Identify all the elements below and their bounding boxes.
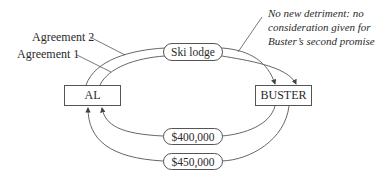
node-buster: BUSTER: [255, 85, 312, 106]
payment-450k-pill: $450,000: [163, 153, 223, 170]
annotation-line-3: Buster’s second promise: [268, 34, 375, 48]
node-al: AL: [64, 85, 121, 106]
agreement-1-leader: [77, 55, 111, 72]
agreement-2-label: Agreement 2: [32, 30, 94, 45]
annotation-leader: [238, 17, 262, 52]
agreement-2-leader: [90, 37, 125, 55]
annotation-line-1: No new detriment: no: [268, 6, 375, 20]
annotation-note: No new detriment: no consideration given…: [268, 6, 375, 48]
payment-400k-pill: $400,000: [163, 128, 223, 145]
annotation-line-2: consideration given for: [268, 20, 375, 34]
agreement-1-label: Agreement 1: [17, 47, 79, 62]
ski-lodge-pill: Ski lodge: [163, 43, 223, 61]
